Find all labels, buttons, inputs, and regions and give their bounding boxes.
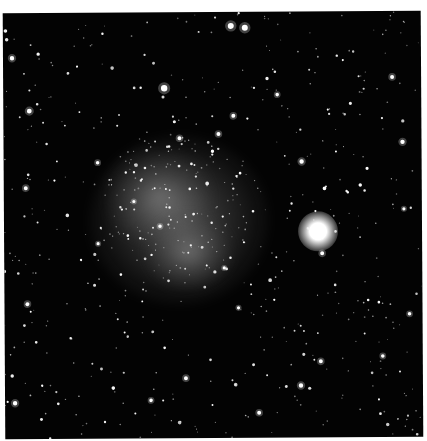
star-field-photo: [3, 11, 424, 440]
globular-cluster: [298, 211, 338, 251]
stars-layer: [3, 11, 424, 440]
